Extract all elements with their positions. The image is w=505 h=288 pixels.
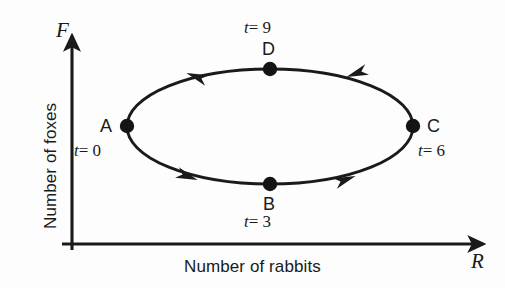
- y-axis-symbol: F: [56, 20, 69, 41]
- point-a-label: A: [100, 117, 112, 135]
- data-point-c: [406, 119, 420, 133]
- point-c-time-value: = 6: [423, 141, 445, 160]
- arrow-top-left-icon: [184, 68, 209, 86]
- point-a-time-label: t= 0: [74, 142, 101, 159]
- point-c-label: C: [427, 117, 440, 135]
- cycle-orbit-ellipse: [127, 69, 413, 184]
- point-d-label: D: [262, 40, 275, 58]
- y-axis-label: Number of foxes: [42, 103, 59, 229]
- point-b-time-label: t= 3: [244, 213, 271, 230]
- point-a-time-value: = 0: [79, 141, 101, 160]
- point-d-time-value: = 9: [249, 18, 271, 37]
- data-point-a: [120, 119, 134, 133]
- point-b-label: B: [263, 195, 275, 213]
- x-axis-symbol: R: [471, 251, 484, 272]
- data-point-b: [263, 177, 277, 191]
- figure-canvas: F R Number of foxes Number of rabbits A …: [0, 0, 505, 288]
- point-d-time-label: t= 9: [244, 19, 271, 36]
- point-b-time-value: = 3: [249, 212, 271, 231]
- point-c-time-label: t= 6: [418, 142, 445, 159]
- x-axis-label: Number of rabbits: [184, 258, 321, 275]
- data-point-d: [263, 62, 277, 76]
